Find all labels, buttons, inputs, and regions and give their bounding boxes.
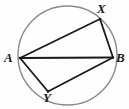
vertex-label-b: B bbox=[116, 51, 125, 64]
vertex-point-x bbox=[99, 18, 101, 20]
segment-a-x bbox=[20, 19, 100, 58]
circumscribed-circle bbox=[18, 6, 117, 105]
vertex-label-y: Y bbox=[43, 91, 51, 104]
circle-figure-svg bbox=[0, 0, 129, 109]
segment-a-y bbox=[20, 58, 48, 92]
segment-a-b bbox=[20, 58, 113, 59]
vertex-label-x: X bbox=[97, 2, 106, 15]
vertex-point-a bbox=[19, 57, 22, 60]
vertex-label-a: A bbox=[4, 51, 13, 64]
vertex-point-b bbox=[112, 56, 114, 58]
geometry-diagram-canvas: A X B Y bbox=[0, 0, 129, 109]
segment-y-b bbox=[48, 58, 113, 92]
